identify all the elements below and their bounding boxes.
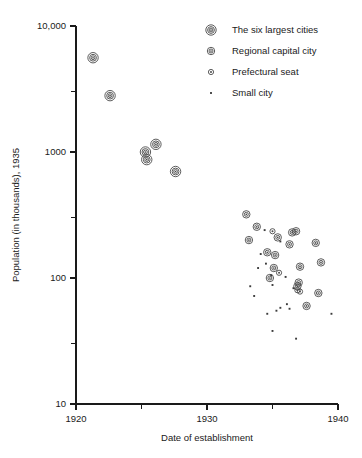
y-tick-label-1000: 1000	[45, 146, 66, 157]
data-point	[253, 295, 255, 297]
data-point	[253, 223, 260, 230]
series-1	[243, 211, 325, 310]
legend-item-3: Small city	[210, 87, 273, 98]
chart-figure: 10,000100010010 Population (in thousands…	[0, 0, 362, 458]
legend-marker-icon	[206, 25, 216, 35]
x-tick-label-1930: 1930	[196, 413, 217, 424]
legend-marker-icon	[208, 69, 213, 74]
chart-legend: The six largest citiesRegional capital c…	[206, 24, 319, 98]
data-point	[274, 234, 281, 241]
data-point	[285, 276, 287, 278]
data-point	[293, 287, 295, 289]
data-point	[276, 270, 281, 275]
data-point	[142, 154, 152, 164]
data-point	[265, 263, 267, 265]
data-point	[170, 166, 180, 176]
data-point	[286, 241, 293, 248]
data-point	[279, 307, 281, 309]
data-point	[151, 139, 161, 149]
data-point	[275, 310, 277, 312]
data-point	[315, 289, 322, 296]
legend-item-label: Prefectural seat	[232, 66, 299, 77]
data-point	[249, 285, 251, 287]
series-0	[88, 53, 181, 177]
data-point	[303, 302, 310, 309]
x-axis: 192019301940 Date of establishment	[65, 404, 348, 443]
y-tick-label-100: 100	[50, 272, 66, 283]
x-tick-label-1940: 1940	[327, 413, 348, 424]
data-point	[266, 274, 273, 281]
data-point	[140, 147, 150, 157]
data-point-layer	[88, 53, 333, 340]
data-point	[272, 284, 274, 286]
x-axis-ticks	[76, 404, 338, 410]
legend-item-1: Regional capital city	[207, 45, 316, 56]
legend-item-label: The six largest cities	[232, 24, 318, 35]
data-point	[272, 330, 274, 332]
data-point	[243, 211, 250, 218]
x-axis-tick-labels: 192019301940	[65, 413, 348, 424]
data-point	[264, 249, 271, 256]
y-axis: 10,000100010010 Population (in thousands…	[10, 20, 76, 409]
data-point	[296, 263, 303, 270]
data-point	[270, 274, 272, 276]
data-point	[257, 267, 259, 269]
data-point	[286, 303, 288, 305]
data-point	[264, 229, 266, 231]
data-point	[295, 338, 297, 340]
legend-item-2: Prefectural seat	[208, 66, 298, 77]
x-tick-label-1920: 1920	[65, 413, 86, 424]
data-point	[270, 264, 277, 271]
data-point	[270, 229, 275, 234]
y-tick-label-10,000: 10,000	[37, 20, 66, 31]
legend-marker-icon	[207, 47, 214, 54]
scatter-plot: 10,000100010010 Population (in thousands…	[0, 0, 362, 458]
data-point	[279, 241, 281, 243]
data-point	[260, 253, 262, 255]
data-point	[271, 251, 278, 258]
legend-item-0: The six largest cities	[206, 24, 319, 36]
data-point	[105, 90, 115, 100]
data-point	[88, 53, 98, 63]
data-point	[245, 236, 252, 243]
data-point	[317, 259, 324, 266]
data-point	[289, 308, 291, 310]
y-axis-tick-labels: 10,000100010010	[37, 20, 66, 409]
data-point	[331, 313, 333, 315]
legend-item-label: Small city	[232, 87, 273, 98]
y-axis-title: Population (in thousands), 1935	[10, 148, 21, 282]
legend-marker-icon	[210, 92, 212, 94]
legend-item-label: Regional capital city	[232, 45, 317, 56]
y-tick-label-10: 10	[55, 398, 66, 409]
y-axis-ticks	[70, 26, 76, 404]
x-axis-title: Date of establishment	[161, 432, 253, 443]
data-point	[312, 239, 319, 246]
data-point	[266, 313, 268, 315]
